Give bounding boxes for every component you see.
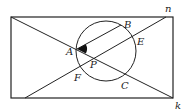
label-k: k — [175, 100, 181, 111]
geometry-diagram: A B E P F C n k — [0, 0, 190, 112]
line-n — [25, 17, 166, 98]
chord-ab — [77, 25, 121, 49]
label-a: A — [65, 46, 73, 57]
label-e: E — [136, 36, 145, 47]
label-c: C — [121, 80, 129, 91]
label-p: P — [89, 59, 97, 70]
label-f: F — [73, 72, 82, 83]
line-k — [11, 17, 173, 98]
label-n: n — [165, 3, 171, 14]
label-b: B — [123, 19, 131, 30]
